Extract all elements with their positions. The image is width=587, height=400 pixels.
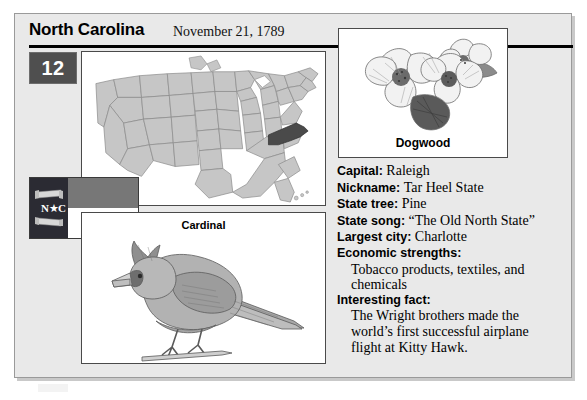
page-scan-artifact	[38, 384, 68, 392]
fact-label-largest-city: Largest city:	[337, 230, 411, 244]
state-bird-panel: Cardinal	[81, 212, 326, 364]
statehood-order-badge: 12	[29, 52, 77, 84]
section-line-fact-1: The Wright brothers made the	[337, 308, 569, 324]
fact-value-largest-city: Charlotte	[415, 229, 467, 244]
state-flower-panel: Dogwood	[338, 28, 508, 158]
fact-row-largest-city: Largest city: Charlotte	[337, 229, 569, 246]
statehood-order-number: 12	[41, 57, 64, 80]
svg-text:N: N	[41, 202, 49, 214]
section-heading-interesting-fact: Interesting fact:	[337, 293, 569, 309]
fact-value-nickname: Tar Heel State	[404, 180, 484, 195]
state-facts-list: Capital: Raleigh Nickname: Tar Heel Stat…	[337, 163, 569, 355]
fact-label-state-song: State song:	[337, 214, 405, 228]
fact-row-state-song: State song: “The Old North State”	[337, 213, 569, 230]
section-line-economic-2: chemicals	[337, 277, 569, 293]
fact-value-state-tree: Pine	[402, 196, 427, 211]
fact-row-capital: Capital: Raleigh	[337, 163, 569, 180]
fact-label-state-tree: State tree:	[337, 197, 398, 211]
cardinal-illustration	[82, 229, 325, 363]
section-line-economic-1: Tobacco products, textiles, and	[337, 262, 569, 278]
state-fact-card-page: North Carolina November 21, 1789 12	[0, 0, 587, 400]
fact-value-state-song: “The Old North State”	[409, 213, 535, 228]
section-line-fact-2: world’s first successful airplane	[337, 324, 569, 340]
svg-text:C: C	[58, 202, 66, 214]
fact-row-nickname: Nickname: Tar Heel State	[337, 180, 569, 197]
fact-label-nickname: Nickname:	[337, 181, 400, 195]
state-card: North Carolina November 21, 1789 12	[14, 13, 572, 378]
fact-value-capital: Raleigh	[386, 163, 430, 178]
fact-row-state-tree: State tree: Pine	[337, 196, 569, 213]
page-title: North Carolina	[29, 20, 144, 40]
fact-label-capital: Capital:	[337, 164, 383, 178]
statehood-date: November 21, 1789	[173, 24, 285, 40]
section-line-fact-3: flight at Kitty Hawk.	[337, 340, 569, 356]
state-flower-caption: Dogwood	[339, 136, 507, 150]
section-heading-economic-strengths: Economic strengths:	[337, 246, 569, 262]
dogwood-illustration	[339, 31, 507, 137]
